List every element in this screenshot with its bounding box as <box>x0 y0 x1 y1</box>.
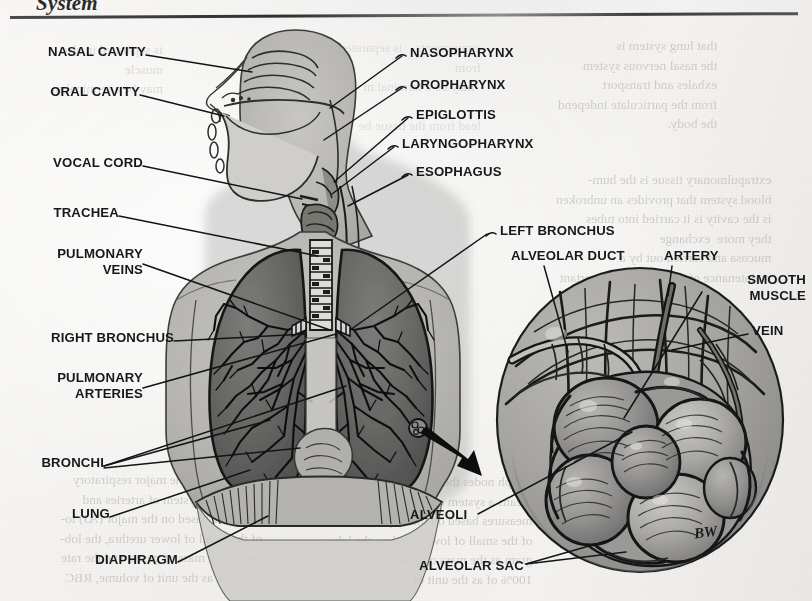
label-alveolar-sac: ALVEOLAR SAC <box>419 558 524 574</box>
label-lung: LUNG <box>0 506 110 522</box>
label-epiglottis: EPIGLOTTIS <box>416 107 496 123</box>
artist-signature: BW <box>693 523 718 543</box>
label-pulmonary-arteries: PULMONARY ARTERIES <box>0 370 143 401</box>
label-trachea: TRACHEA <box>0 205 119 221</box>
label-oral-cavity: ORAL CAVITY <box>0 84 140 100</box>
scanned-textbook-page: is separated in also muscle may be a ter… <box>0 0 812 601</box>
label-oropharynx: OROPHARYNX <box>410 77 506 93</box>
label-laryngopharynx: LARYNGOPHARYNX <box>402 136 534 152</box>
label-nasal-cavity: NASAL CAVITY <box>0 44 146 60</box>
label-vein: VEIN <box>752 323 783 339</box>
label-artery: ARTERY <box>664 248 719 264</box>
label-smooth-muscle: SMOOTH MUSCLE <box>648 272 806 303</box>
label-alveoli: ALVEOLI <box>410 507 467 523</box>
label-right-bronchus: RIGHT BRONCHUS <box>0 330 174 346</box>
label-bronchi: BRONCHI <box>0 455 104 471</box>
label-diaphragm: DIAPHRAGM <box>0 552 178 568</box>
label-nasopharynx: NASOPHARYNX <box>410 45 514 61</box>
label-esophagus: ESOPHAGUS <box>416 164 502 180</box>
label-alveolar-duct: ALVEOLAR DUCT <box>511 248 625 264</box>
label-left-bronchus: LEFT BRONCHUS <box>500 223 615 239</box>
label-vocal-cord: VOCAL CORD <box>0 155 143 171</box>
label-pulmonary-veins: PULMONARY VEINS <box>0 246 143 277</box>
